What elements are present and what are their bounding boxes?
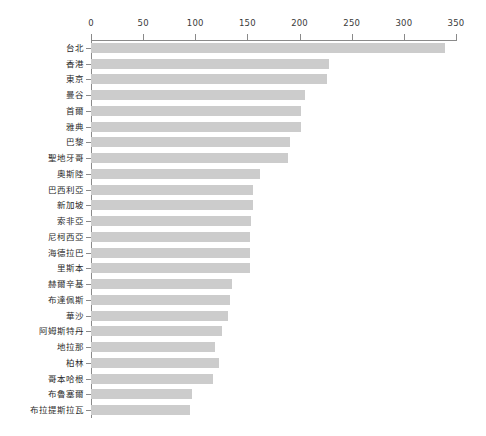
category-label: 首爾: [7, 106, 91, 116]
bar: [91, 169, 260, 179]
bar: [91, 90, 305, 100]
category-label: 聖地牙哥: [7, 153, 91, 163]
bar: [91, 326, 222, 336]
category-label: 索非亞: [7, 216, 91, 226]
bar: [91, 279, 232, 289]
category-label: 新加坡: [7, 200, 91, 210]
category-label: 布拉提斯拉瓦: [7, 405, 91, 415]
category-labels: 台北香港東京曼谷首爾雅典巴黎聖地牙哥奧斯陸巴西利亞新加坡索非亞尼柯西亞海德拉巴里…: [0, 0, 91, 436]
bar: [91, 405, 190, 415]
x-axis-tick-label: 100: [187, 18, 204, 28]
category-label: 布達佩斯: [7, 295, 91, 305]
category-label: 曼谷: [7, 90, 91, 100]
bar: [91, 232, 250, 242]
bar: [91, 185, 253, 195]
category-label: 巴黎: [7, 137, 91, 147]
bar: [91, 74, 327, 84]
bar: [91, 389, 192, 399]
bar: [91, 216, 251, 226]
category-label: 華沙: [7, 311, 91, 321]
category-label: 東京: [7, 74, 91, 84]
category-label: 哥本哈根: [7, 374, 91, 384]
category-label: 柏林: [7, 358, 91, 368]
category-label: 奧斯陸: [7, 169, 91, 179]
bar: [91, 358, 219, 368]
category-label: 香港: [7, 59, 91, 69]
category-label: 雅典: [7, 122, 91, 132]
bar: [91, 200, 253, 210]
bar-chart: 050100150200250300350 台北香港東京曼谷首爾雅典巴黎聖地牙哥…: [0, 0, 486, 436]
category-label: 赫爾辛基: [7, 279, 91, 289]
category-label: 阿姆斯特丹: [7, 326, 91, 336]
category-label: 布魯塞爾: [7, 389, 91, 399]
bar: [91, 263, 250, 273]
bar: [91, 153, 288, 163]
category-label: 海德拉巴: [7, 248, 91, 258]
x-axis-tick-label: 200: [291, 18, 308, 28]
category-label: 里斯本: [7, 263, 91, 273]
bar: [91, 295, 230, 305]
x-axis-tick-label: 300: [395, 18, 412, 28]
category-label: 尼柯西亞: [7, 232, 91, 242]
bar: [91, 311, 228, 321]
bar: [91, 342, 215, 352]
bars-container: [91, 40, 456, 418]
x-axis-tick-label: 50: [138, 18, 149, 28]
category-label: 台北: [7, 43, 91, 53]
bar: [91, 248, 250, 258]
x-axis-tick-label: 150: [239, 18, 256, 28]
x-axis-tick-label: 250: [343, 18, 360, 28]
category-label: 巴西利亞: [7, 185, 91, 195]
x-axis-tick: [456, 34, 457, 40]
x-axis-tick-label: 350: [448, 18, 465, 28]
bar: [91, 122, 301, 132]
bar: [91, 137, 290, 147]
bar: [91, 59, 329, 69]
category-label: 地拉那: [7, 342, 91, 352]
bar: [91, 106, 301, 116]
bar: [91, 43, 445, 53]
bar: [91, 374, 213, 384]
